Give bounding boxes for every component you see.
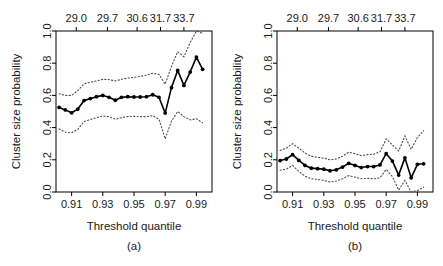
xtick-label: 0.93 xyxy=(92,198,113,210)
panel-caption: (b) xyxy=(348,240,362,252)
data-point-marker xyxy=(334,168,338,172)
top-xtick-label: 29.7 xyxy=(318,12,339,24)
data-point-marker xyxy=(201,67,205,71)
xtick-label: 0.99 xyxy=(186,198,207,210)
plot-frame xyxy=(56,31,212,192)
ytick-label: 0.2 xyxy=(41,152,53,167)
data-point-marker xyxy=(57,106,61,110)
xtick-label: 0.95 xyxy=(344,198,365,210)
xtick-label: 0.91 xyxy=(282,198,303,210)
top-xtick-label: 29.0 xyxy=(287,12,308,24)
data-point-marker xyxy=(176,69,180,73)
ytick-label: 0.4 xyxy=(41,120,53,135)
xtick-label: 0.97 xyxy=(154,198,175,210)
data-point-marker xyxy=(157,95,161,99)
data-point-marker xyxy=(391,159,395,163)
data-point-marker xyxy=(63,108,67,112)
data-point-marker xyxy=(188,70,192,74)
data-point-marker xyxy=(151,93,155,97)
data-point-marker xyxy=(397,173,401,177)
data-point-marker xyxy=(359,166,363,170)
data-point-marker xyxy=(113,98,117,102)
data-point-marker xyxy=(88,97,92,101)
panel-a: 0.910.930.950.970.9929.029.730.631.733.7… xyxy=(0,0,221,266)
data-point-marker xyxy=(70,111,74,115)
xtick-label: 0.95 xyxy=(123,198,144,210)
top-xtick-label: 30.6 xyxy=(347,12,368,24)
data-point-marker xyxy=(341,165,345,169)
data-point-marker xyxy=(322,167,326,171)
xtick-label: 0.97 xyxy=(375,198,396,210)
data-point-marker xyxy=(422,162,426,166)
estimate-line xyxy=(280,154,424,178)
ytick-label: 0.4 xyxy=(262,120,274,135)
confidence-band-line xyxy=(59,112,203,139)
data-point-marker xyxy=(126,95,130,99)
top-xtick-label: 31.7 xyxy=(371,12,392,24)
top-xtick-label: 33.7 xyxy=(173,12,194,24)
data-point-marker xyxy=(403,156,407,160)
data-point-marker xyxy=(309,166,313,170)
panel-b: 0.910.930.950.970.9929.029.730.631.733.7… xyxy=(221,0,442,266)
confidence-band-line xyxy=(280,165,424,192)
plot-b: 0.910.930.950.970.9929.029.730.631.733.7… xyxy=(221,0,442,266)
data-point-marker xyxy=(101,94,105,98)
top-xtick-label: 30.6 xyxy=(126,12,147,24)
xtick-label: 0.91 xyxy=(61,198,82,210)
plot-frame xyxy=(277,31,433,192)
data-point-marker xyxy=(284,157,288,161)
confidence-band-line xyxy=(280,131,424,160)
ytick-label: 0.6 xyxy=(41,88,53,103)
ytick-label: 0.8 xyxy=(41,56,53,71)
top-xtick-label: 33.7 xyxy=(394,12,415,24)
xtick-label: 0.93 xyxy=(313,198,334,210)
data-point-marker xyxy=(328,169,332,173)
ytick-label: 1.0 xyxy=(262,23,274,38)
figure-container: 0.910.930.950.970.9929.029.730.631.733.7… xyxy=(0,0,443,266)
ytick-label: 0.0 xyxy=(262,184,274,199)
data-point-marker xyxy=(120,95,124,99)
data-point-marker xyxy=(297,159,301,163)
data-point-marker xyxy=(372,165,376,169)
panel-caption: (a) xyxy=(127,240,141,252)
ytick-label: 0.2 xyxy=(262,152,274,167)
ytick-label: 0.0 xyxy=(41,184,53,199)
confidence-band-line xyxy=(59,31,203,95)
data-point-marker xyxy=(195,55,199,59)
ytick-label: 0.8 xyxy=(262,56,274,71)
top-xtick-label: 31.7 xyxy=(150,12,171,24)
data-point-marker xyxy=(107,95,111,99)
data-point-marker xyxy=(95,95,99,99)
data-point-marker xyxy=(378,163,382,167)
ytick-label: 0.6 xyxy=(262,88,274,103)
data-point-marker xyxy=(366,165,370,169)
x-axis-title: Threshold quantile xyxy=(308,220,403,232)
data-point-marker xyxy=(138,95,142,99)
x-axis-title: Threshold quantile xyxy=(87,220,182,232)
data-point-marker xyxy=(303,164,307,168)
data-point-marker xyxy=(182,84,186,88)
y-axis-title: Cluster size probability xyxy=(231,53,243,169)
plot-a: 0.910.930.950.970.9929.029.730.631.733.7… xyxy=(0,0,221,266)
data-point-marker xyxy=(416,162,420,166)
xtick-label: 0.99 xyxy=(407,198,428,210)
data-point-marker xyxy=(82,99,86,103)
data-point-marker xyxy=(347,161,351,165)
top-xtick-label: 29.7 xyxy=(97,12,118,24)
estimate-line xyxy=(59,57,203,113)
data-point-marker xyxy=(76,107,80,111)
data-point-marker xyxy=(132,95,136,99)
data-point-marker xyxy=(291,153,295,157)
data-point-marker xyxy=(170,86,174,90)
data-point-marker xyxy=(316,167,320,171)
y-axis-title: Cluster size probability xyxy=(10,53,22,169)
ytick-label: 1.0 xyxy=(41,23,53,38)
data-point-marker xyxy=(384,152,388,156)
data-point-marker xyxy=(409,176,413,180)
data-point-marker xyxy=(353,164,357,168)
data-point-marker xyxy=(145,95,149,99)
data-point-marker xyxy=(278,159,282,163)
top-xtick-label: 29.0 xyxy=(66,12,87,24)
data-point-marker xyxy=(163,111,167,115)
